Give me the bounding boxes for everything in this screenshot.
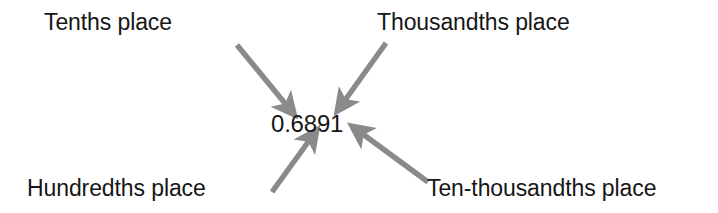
arrow-hundredths — [272, 138, 311, 192]
label-ten-thousandths-place: Ten-thousandths place — [427, 175, 656, 201]
place-value-diagram: Tenths place Thousandths place Hundredth… — [0, 0, 718, 213]
label-thousandths-place: Thousandths place — [377, 9, 570, 35]
label-hundredths-place: Hundredths place — [27, 175, 206, 201]
arrow-thousandths — [343, 43, 386, 103]
decimal-value: 0.6891 — [271, 110, 343, 137]
label-tenths-place: Tenths place — [44, 9, 172, 35]
arrow-tenths — [237, 45, 288, 107]
arrow-ten-thousandths — [360, 132, 428, 182]
